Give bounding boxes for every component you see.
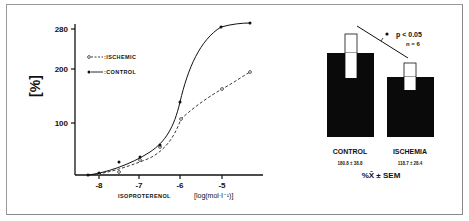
figure-canvas: 280 200 100 [%] -8 -7 -6 -5 ISOPROTERENO… bbox=[0, 0, 469, 221]
ischemia-value: 118.7 ± 28.4 bbox=[398, 161, 423, 166]
open-circle-marker-icon bbox=[88, 56, 91, 59]
significance-dot-icon bbox=[385, 32, 388, 35]
legend-control: :CONTROL bbox=[104, 69, 136, 75]
x-axis-title: ISOPROTERENOL bbox=[118, 193, 171, 199]
control-sem-box-upper bbox=[345, 34, 357, 53]
y-tick-label-100: 100 bbox=[55, 119, 69, 128]
ischemia-label: ISCHEMIA bbox=[393, 148, 427, 155]
ischemia-sem-box-lower bbox=[404, 77, 415, 90]
y-tick-label-280: 280 bbox=[55, 25, 69, 34]
n-value-label: n = 6 bbox=[406, 41, 421, 47]
bar-chart-footer: %X̄ ± SEM bbox=[362, 171, 401, 180]
filled-circle-marker-icon bbox=[88, 71, 91, 74]
ischemic-curve bbox=[88, 72, 250, 175]
control-sem-box-lower bbox=[345, 53, 356, 78]
control-value: 180.8 ± 38.8 bbox=[338, 161, 363, 166]
x-tick-label-minus7: -7 bbox=[135, 181, 143, 190]
significance-pointer bbox=[381, 38, 383, 41]
legend-ischemic: :ISCHEMIC bbox=[104, 54, 136, 60]
y-axis-label: [%] bbox=[27, 75, 43, 97]
dose-response-chart: 280 200 100 [%] -8 -7 -6 -5 ISOPROTERENO… bbox=[27, 22, 263, 201]
y-tick-label-200: 200 bbox=[55, 65, 69, 74]
x-tick-label-minus8: -8 bbox=[95, 181, 103, 190]
x-axis-unit: [log(mol·l⁻¹)] bbox=[194, 192, 233, 200]
x-tick-label-minus5: -5 bbox=[218, 181, 226, 190]
p-value-label: p < 0.05 bbox=[396, 31, 422, 39]
bar-chart: p < 0.05 n = 6 CONTROL ISCHEMIA 180.8 ± … bbox=[327, 26, 434, 180]
legend: :ISCHEMIC :CONTROL bbox=[88, 54, 137, 75]
ischemic-points bbox=[98, 71, 252, 176]
control-label: CONTROL bbox=[333, 148, 368, 155]
control-curve bbox=[88, 23, 250, 175]
x-tick-label-minus6: -6 bbox=[176, 181, 184, 190]
control-points bbox=[87, 22, 252, 177]
ischemia-sem-box-upper bbox=[404, 63, 416, 77]
